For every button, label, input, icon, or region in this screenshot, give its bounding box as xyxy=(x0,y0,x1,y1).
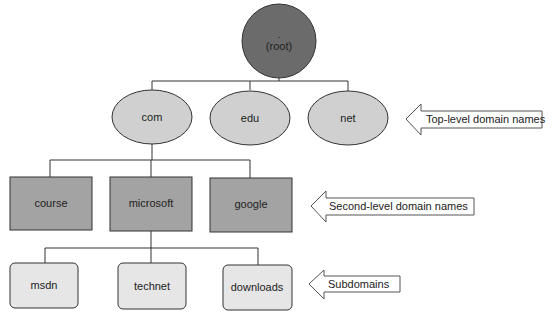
node-label: technet xyxy=(134,280,170,292)
root-node: . (root) xyxy=(242,4,316,78)
annotation-label: Subdomains xyxy=(328,278,390,290)
subdomain-node-downloads: downloads xyxy=(223,265,292,310)
dns-hierarchy-diagram: . (root) com edu net course microsoft go… xyxy=(0,0,560,319)
node-label: google xyxy=(234,198,267,210)
node-label: microsoft xyxy=(129,197,174,209)
top-level-node-edu: edu xyxy=(210,91,290,145)
node-label: edu xyxy=(241,112,259,124)
second-level-node-google: google xyxy=(210,178,292,232)
annotation-subdomains: Subdomains xyxy=(309,270,400,299)
second-level-node-course: course xyxy=(10,177,92,230)
top-level-node-com: com xyxy=(112,90,192,144)
second-level-node-microsoft: microsoft xyxy=(110,177,192,231)
annotation-label: Top-level domain names xyxy=(426,113,546,125)
annotation-top-level: Top-level domain names xyxy=(406,104,546,135)
annotation-label: Second-level domain names xyxy=(329,200,468,212)
subdomain-node-technet: technet xyxy=(118,263,186,309)
node-label: net xyxy=(340,112,355,124)
root-label: (root) xyxy=(266,40,292,52)
node-label: course xyxy=(34,197,67,209)
node-label: downloads xyxy=(231,281,284,293)
connectors xyxy=(45,78,348,265)
subdomain-node-msdn: msdn xyxy=(10,263,78,308)
root-dot: . xyxy=(277,28,280,40)
node-label: msdn xyxy=(31,279,58,291)
annotation-second-level: Second-level domain names xyxy=(311,191,474,222)
top-level-node-net: net xyxy=(308,91,388,145)
node-label: com xyxy=(142,111,163,123)
